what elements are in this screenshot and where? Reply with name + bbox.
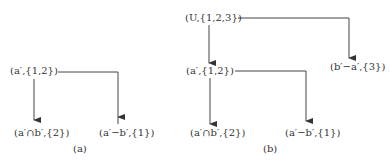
- caption-b: (b): [263, 143, 277, 155]
- edge-a-root-to-right: [58, 72, 118, 117]
- node-b-left-child: (a′∩b′,{2}): [190, 127, 245, 139]
- node-a-left-child: (a′∩b′,{2}): [14, 127, 69, 139]
- figure: (a′,{1,2}) (a′∩b′,{2}) (a′−b′,{1}) (a) (…: [0, 0, 390, 161]
- edge-b-root-to-right-top: [238, 18, 349, 58]
- node-a-right-child: (a′−b′,{1}): [99, 127, 154, 139]
- caption-a: (a): [73, 143, 87, 155]
- node-b-mid: (a′,{1,2}): [186, 65, 234, 77]
- edge-b-mid-to-right: [235, 71, 306, 121]
- node-b-right-top: (b′−a′,{3}): [330, 61, 385, 73]
- node-b-root: (U,{1,2,3}): [185, 12, 242, 24]
- node-b-right-child: (a′−b′,{1}): [285, 127, 340, 139]
- node-a-root: (a′,{1,2}): [10, 65, 58, 77]
